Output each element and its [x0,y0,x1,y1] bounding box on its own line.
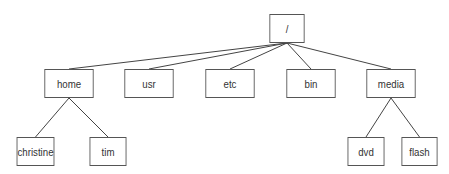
edge-media-dvd [366,98,391,137]
node-root: / [269,14,304,43]
edge-root-home [69,43,287,69]
node-home: home [44,69,93,98]
edge-root-usr [149,43,287,69]
node-label: / [286,23,289,35]
node-label: flash [409,146,429,158]
node-flash: flash [401,137,437,166]
edge-home-tim [69,98,108,137]
node-label: etc [224,78,237,90]
node-media: media [366,69,415,98]
node-label: tim [102,146,115,158]
edge-root-media [287,43,391,69]
node-usr: usr [124,69,173,98]
edge-root-bin [287,43,311,69]
node-tim: tim [90,137,127,166]
node-label: dvd [358,146,374,158]
node-bin: bin [286,69,335,98]
node-etc: etc [205,69,254,98]
node-christine: christine [17,137,55,166]
node-dvd: dvd [348,137,385,166]
edge-media-flash [391,98,420,137]
node-label: media [378,78,404,90]
node-label: home [57,78,81,90]
directory-tree-diagram: / home usr etc bin media christine tim d… [0,0,449,174]
node-label: usr [142,78,155,90]
node-label: christine [17,146,53,158]
edge-home-christine [36,98,70,137]
node-label: bin [305,78,318,90]
